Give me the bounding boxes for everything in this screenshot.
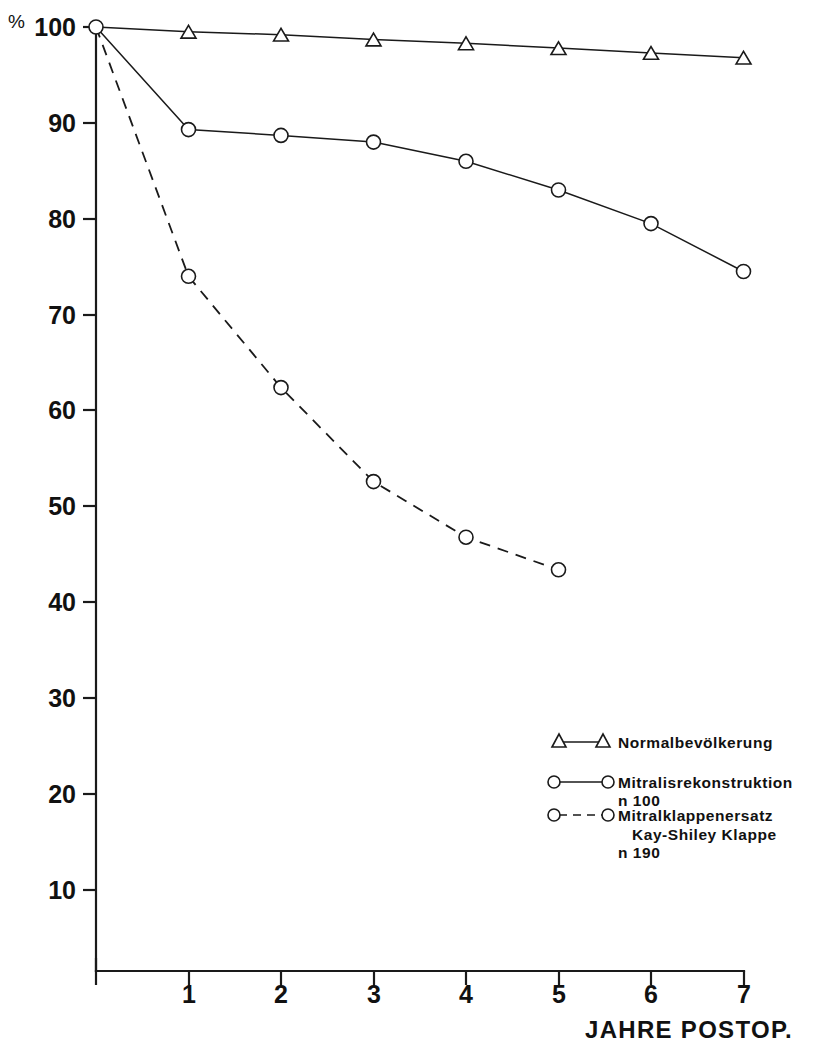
legend-label-3: Mitralklappenersatz: [618, 807, 773, 824]
x-tick-marks: [189, 971, 651, 985]
y-tick-label-80: 80: [48, 205, 76, 233]
circle-marker: [274, 128, 288, 142]
series-line-3: [96, 27, 559, 570]
circle-marker: [367, 135, 381, 149]
legend-label-2: Mitralisrekonstruktion: [618, 774, 793, 791]
chart-canvas: 100 90 80 70 60 50 40 30 20 10 1 2 3 4 5…: [0, 0, 816, 1051]
circle-marker: [552, 563, 566, 577]
legend-sublabel-3a: Kay-Shiley Klappe: [632, 826, 777, 843]
triangle-icon: [552, 734, 566, 747]
x-axis-title: JAHRE POSTOP.: [585, 1016, 793, 1043]
triangle-icon: [596, 734, 610, 747]
circle-marker: [644, 217, 658, 231]
origin-marker: [89, 20, 103, 34]
legend-label-1: Normalbevölkerung: [618, 734, 773, 751]
survival-curve-chart: 100 90 80 70 60 50 40 30 20 10 1 2 3 4 5…: [0, 0, 816, 1051]
y-tick-label-50: 50: [48, 492, 76, 520]
y-tick-labels: 100 90 80 70 60 50 40 30 20 10: [34, 13, 76, 904]
legend-entry-normalbevoelkerung[interactable]: Normalbevölkerung: [552, 734, 773, 751]
x-tick-label-5: 5: [552, 980, 566, 1008]
legend: Normalbevölkerung Mitralisrekonstruktion…: [548, 734, 793, 861]
circle-marker: [274, 381, 288, 395]
y-tick-label-10: 10: [48, 876, 76, 904]
y-tick-label-20: 20: [48, 780, 76, 808]
circle-marker: [182, 123, 196, 137]
y-axis-unit-label: %: [8, 11, 25, 32]
circle-marker: [737, 265, 751, 279]
circle-marker: [459, 530, 473, 544]
y-tick-label-100: 100: [34, 13, 76, 41]
x-tick-label-1: 1: [182, 980, 196, 1008]
legend-sublabel-3b: n 190: [618, 844, 660, 861]
y-tick-marks: [83, 27, 96, 890]
circle-marker: [182, 269, 196, 283]
x-tick-label-3: 3: [367, 980, 381, 1008]
circle-icon: [602, 809, 614, 821]
y-tick-label-70: 70: [48, 301, 76, 329]
y-tick-label-30: 30: [48, 684, 76, 712]
series-3: [96, 27, 566, 577]
x-tick-label-7: 7: [737, 980, 751, 1008]
circle-icon: [548, 809, 560, 821]
series-line-2: [96, 27, 744, 272]
x-tick-labels: 1 2 3 4 5 6 7: [182, 980, 751, 1008]
circle-marker: [459, 154, 473, 168]
x-tick-label-6: 6: [644, 980, 658, 1008]
legend-entry-mitralklappenersatz[interactable]: Mitralklappenersatz Kay-Shiley Klappe n …: [548, 807, 777, 861]
y-tick-label-90: 90: [48, 109, 76, 137]
series-1: [96, 25, 751, 64]
circle-icon: [602, 776, 614, 788]
y-tick-label-60: 60: [48, 396, 76, 424]
y-tick-label-40: 40: [48, 588, 76, 616]
series-2: [96, 27, 751, 279]
legend-entry-mitralisrekonstruktion[interactable]: Mitralisrekonstruktion n 100: [548, 774, 793, 809]
circle-marker: [367, 475, 381, 489]
circle-marker: [552, 183, 566, 197]
x-tick-label-2: 2: [274, 980, 288, 1008]
data-series-layer: [89, 20, 751, 577]
circle-icon: [548, 776, 560, 788]
x-tick-label-4: 4: [459, 980, 473, 1008]
